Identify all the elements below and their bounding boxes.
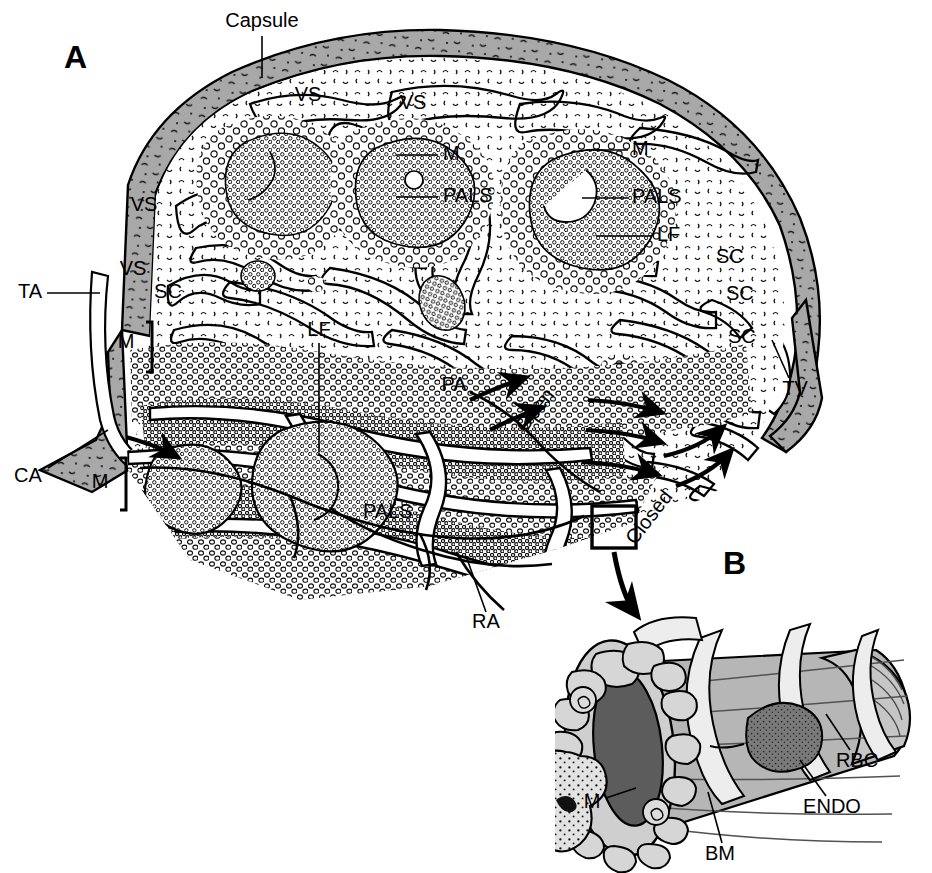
label-pals-top-1: PALS [443,184,493,206]
spleen-diagram: A Capsule VS VS VS VS M M PALS PALS LF S… [0,0,932,873]
label-lf-right: LF [657,223,680,245]
label-ca: CA [14,464,42,486]
label-sc-right-1: SC [716,245,744,267]
label-vs-1: VS [295,83,322,105]
label-pa: PA [441,373,467,395]
label-b-m: M [584,790,601,812]
label-ta: TA [18,280,43,302]
label-b-bm: BM [705,842,735,864]
label-pals-top-2: PALS [632,185,682,207]
label-m-top-2: M [632,137,649,159]
label-tv: TV [782,377,808,399]
label-vs-4: VS [120,257,147,279]
label-sc-right-2: SC [726,282,754,304]
panel-a-label: A [64,39,87,75]
label-lf-center: LF [307,318,330,340]
label-b-rbc: RBC [836,749,878,771]
panel-b-label: B [723,545,746,581]
label-vs-3: VS [131,193,158,215]
label-vs-2: VS [400,91,427,113]
label-pals-bottom: PALS [363,500,413,522]
label-b-endo: ENDO [803,795,861,817]
label-m-low-left: M [92,470,109,492]
label-m-mid-left: M [118,330,135,352]
label-sc-left: SC [154,280,182,302]
label-ra: RA [472,610,500,632]
figure-canvas: A Capsule VS VS VS VS M M PALS PALS LF S… [0,0,932,873]
label-sc-right-3: SC [728,325,756,347]
label-capsule: Capsule [225,9,298,31]
label-m-top-1: M [443,142,460,164]
